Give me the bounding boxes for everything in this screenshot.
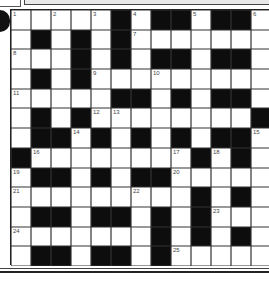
letter-cell[interactable] <box>91 30 111 50</box>
letter-cell[interactable] <box>71 227 91 247</box>
letter-cell[interactable] <box>251 89 269 109</box>
letter-cell[interactable] <box>231 108 251 128</box>
letter-cell[interactable] <box>151 187 171 207</box>
letter-cell[interactable] <box>231 168 251 188</box>
letter-cell[interactable] <box>71 187 91 207</box>
letter-cell[interactable] <box>231 246 251 266</box>
letter-cell[interactable]: 25 <box>171 246 191 266</box>
letter-cell[interactable] <box>71 246 91 266</box>
letter-cell[interactable] <box>251 227 269 247</box>
letter-cell[interactable] <box>51 227 71 247</box>
letter-cell[interactable] <box>11 246 31 266</box>
letter-cell[interactable] <box>31 49 51 69</box>
letter-cell[interactable]: 8 <box>11 49 31 69</box>
letter-cell[interactable]: 24 <box>11 227 31 247</box>
letter-cell[interactable] <box>131 148 151 168</box>
letter-cell[interactable] <box>51 89 71 109</box>
letter-cell[interactable] <box>171 227 191 247</box>
letter-cell[interactable]: 1 <box>11 10 31 30</box>
letter-cell[interactable] <box>111 69 131 89</box>
letter-cell[interactable] <box>251 187 269 207</box>
letter-cell[interactable]: 15 <box>251 128 269 148</box>
letter-cell[interactable] <box>91 148 111 168</box>
letter-cell[interactable] <box>151 108 171 128</box>
letter-cell[interactable]: 11 <box>11 89 31 109</box>
letter-cell[interactable] <box>91 49 111 69</box>
letter-cell[interactable] <box>31 89 51 109</box>
letter-cell[interactable]: 16 <box>31 148 51 168</box>
letter-cell[interactable] <box>211 168 231 188</box>
letter-cell[interactable] <box>71 89 91 109</box>
letter-cell[interactable] <box>51 187 71 207</box>
letter-cell[interactable] <box>191 49 211 69</box>
letter-cell[interactable] <box>111 227 131 247</box>
letter-cell[interactable]: 2 <box>51 10 71 30</box>
letter-cell[interactable]: 10 <box>151 69 171 89</box>
letter-cell[interactable] <box>151 128 171 148</box>
letter-cell[interactable] <box>91 187 111 207</box>
letter-cell[interactable] <box>51 30 71 50</box>
letter-cell[interactable]: 7 <box>131 30 151 50</box>
letter-cell[interactable] <box>251 168 269 188</box>
letter-cell[interactable] <box>251 30 269 50</box>
letter-cell[interactable] <box>151 148 171 168</box>
letter-cell[interactable] <box>191 108 211 128</box>
letter-cell[interactable] <box>151 89 171 109</box>
letter-cell[interactable] <box>211 108 231 128</box>
letter-cell[interactable] <box>71 207 91 227</box>
letter-cell[interactable] <box>51 148 71 168</box>
letter-cell[interactable] <box>131 108 151 128</box>
letter-cell[interactable]: 6 <box>251 10 269 30</box>
letter-cell[interactable] <box>71 168 91 188</box>
letter-cell[interactable] <box>211 30 231 50</box>
letter-cell[interactable] <box>231 207 251 227</box>
letter-cell[interactable] <box>171 207 191 227</box>
letter-cell[interactable] <box>171 187 191 207</box>
letter-cell[interactable] <box>111 148 131 168</box>
letter-cell[interactable]: 12 <box>91 108 111 128</box>
letter-cell[interactable] <box>51 69 71 89</box>
letter-cell[interactable] <box>251 49 269 69</box>
letter-cell[interactable]: 9 <box>91 69 111 89</box>
letter-cell[interactable] <box>191 89 211 109</box>
letter-cell[interactable] <box>211 227 231 247</box>
letter-cell[interactable] <box>191 168 211 188</box>
letter-cell[interactable] <box>171 30 191 50</box>
letter-cell[interactable] <box>111 187 131 207</box>
letter-cell[interactable] <box>91 227 111 247</box>
letter-cell[interactable] <box>71 10 91 30</box>
letter-cell[interactable] <box>11 128 31 148</box>
letter-cell[interactable] <box>191 69 211 89</box>
letter-cell[interactable] <box>11 108 31 128</box>
letter-cell[interactable] <box>131 69 151 89</box>
letter-cell[interactable] <box>251 148 269 168</box>
letter-cell[interactable] <box>71 148 91 168</box>
letter-cell[interactable] <box>51 49 71 69</box>
letter-cell[interactable] <box>111 168 131 188</box>
letter-cell[interactable]: 5 <box>191 10 211 30</box>
letter-cell[interactable] <box>211 187 231 207</box>
letter-cell[interactable] <box>171 108 191 128</box>
letter-cell[interactable] <box>191 30 211 50</box>
letter-cell[interactable]: 3 <box>91 10 111 30</box>
letter-cell[interactable] <box>211 69 231 89</box>
letter-cell[interactable] <box>51 108 71 128</box>
letter-cell[interactable] <box>31 10 51 30</box>
letter-cell[interactable] <box>111 128 131 148</box>
letter-cell[interactable] <box>191 246 211 266</box>
letter-cell[interactable] <box>11 30 31 50</box>
letter-cell[interactable] <box>171 69 191 89</box>
letter-cell[interactable]: 19 <box>11 168 31 188</box>
letter-cell[interactable] <box>91 89 111 109</box>
letter-cell[interactable]: 13 <box>111 108 131 128</box>
letter-cell[interactable] <box>151 30 171 50</box>
letter-cell[interactable] <box>251 207 269 227</box>
letter-cell[interactable] <box>11 207 31 227</box>
letter-cell[interactable] <box>251 69 269 89</box>
letter-cell[interactable] <box>131 227 151 247</box>
letter-cell[interactable]: 21 <box>11 187 31 207</box>
letter-cell[interactable] <box>131 207 151 227</box>
letter-cell[interactable] <box>251 246 269 266</box>
letter-cell[interactable]: 23 <box>211 207 231 227</box>
letter-cell[interactable] <box>31 227 51 247</box>
